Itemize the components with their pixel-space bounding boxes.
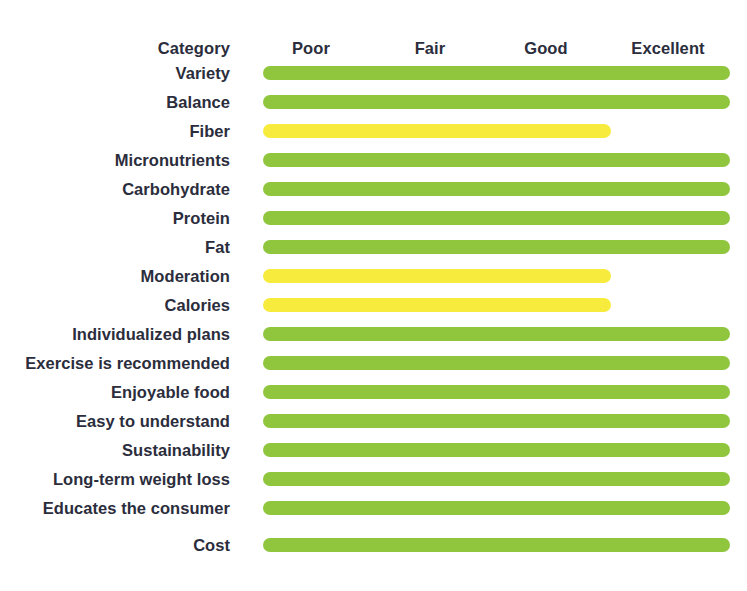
bar-easy-to-understand: [263, 414, 730, 428]
row-label-variety: Variety: [176, 62, 230, 91]
row-label-exercise-is-recommended: Exercise is recommended: [25, 352, 230, 381]
chart-row: Balance: [0, 91, 747, 120]
row-label-educates-the-consumer: Educates the consumer: [43, 497, 230, 526]
chart-row: Exercise is recommended: [0, 352, 747, 381]
bar-track: [263, 298, 730, 312]
bar-track: [263, 95, 730, 109]
bar-fat: [263, 240, 730, 254]
bar-track: [263, 211, 730, 225]
row-label-balance: Balance: [166, 91, 230, 120]
row-label-long-term-weight-loss: Long-term weight loss: [53, 468, 230, 497]
diet-evaluation-chart: Category PoorFairGoodExcellent VarietyBa…: [0, 0, 747, 591]
row-label-sustainability: Sustainability: [122, 439, 230, 468]
bar-track: [263, 501, 730, 515]
bar-track: [263, 385, 730, 399]
row-label-fat: Fat: [205, 236, 230, 265]
category-column-header: Category: [158, 36, 230, 60]
axis-tick-poor: Poor: [292, 36, 330, 60]
bar-sustainability: [263, 443, 730, 457]
bar-micronutrients: [263, 153, 730, 167]
axis-tick-good: Good: [524, 36, 567, 60]
bar-fiber: [263, 124, 611, 138]
row-label-enjoyable-food: Enjoyable food: [111, 381, 230, 410]
bar-track: [263, 356, 730, 370]
chart-row: Individualized plans: [0, 323, 747, 352]
chart-rows: VarietyBalanceFiberMicronutrientsCarbohy…: [0, 62, 747, 563]
bar-track: [263, 240, 730, 254]
bar-track: [263, 66, 730, 80]
row-label-individualized-plans: Individualized plans: [72, 323, 230, 352]
row-label-carbohydrate: Carbohydrate: [122, 178, 230, 207]
chart-row: Educates the consumer: [0, 497, 747, 526]
bar-calories: [263, 298, 611, 312]
bar-exercise-is-recommended: [263, 356, 730, 370]
bar-long-term-weight-loss: [263, 472, 730, 486]
row-label-fiber: Fiber: [189, 120, 230, 149]
chart-row: Long-term weight loss: [0, 468, 747, 497]
row-label-cost: Cost: [193, 534, 230, 563]
chart-row: Carbohydrate: [0, 178, 747, 207]
bar-individualized-plans: [263, 327, 730, 341]
chart-row: Sustainability: [0, 439, 747, 468]
row-label-protein: Protein: [173, 207, 230, 236]
row-label-micronutrients: Micronutrients: [115, 149, 230, 178]
bar-track: [263, 327, 730, 341]
bar-track: [263, 472, 730, 486]
bar-educates-the-consumer: [263, 501, 730, 515]
bar-track: [263, 269, 730, 283]
chart-row: Protein: [0, 207, 747, 236]
bar-track: [263, 153, 730, 167]
bar-track: [263, 538, 730, 552]
bar-track: [263, 182, 730, 196]
bar-carbohydrate: [263, 182, 730, 196]
chart-row: Fat: [0, 236, 747, 265]
bar-cost: [263, 538, 730, 552]
axis-tick-excellent: Excellent: [631, 36, 704, 60]
bar-variety: [263, 66, 730, 80]
bar-moderation: [263, 269, 611, 283]
chart-row: Easy to understand: [0, 410, 747, 439]
chart-row: Calories: [0, 294, 747, 323]
chart-row: Enjoyable food: [0, 381, 747, 410]
bar-balance: [263, 95, 730, 109]
bar-track: [263, 443, 730, 457]
bar-track: [263, 124, 730, 138]
row-label-calories: Calories: [164, 294, 230, 323]
chart-header-row: Category PoorFairGoodExcellent: [0, 36, 747, 60]
chart-row: Moderation: [0, 265, 747, 294]
bar-protein: [263, 211, 730, 225]
bar-track: [263, 414, 730, 428]
bar-enjoyable-food: [263, 385, 730, 399]
chart-row: Cost: [0, 534, 747, 563]
axis-tick-fair: Fair: [415, 36, 446, 60]
row-label-moderation: Moderation: [141, 265, 230, 294]
chart-row: Variety: [0, 62, 747, 91]
row-label-easy-to-understand: Easy to understand: [76, 410, 230, 439]
chart-row: Micronutrients: [0, 149, 747, 178]
chart-row: Fiber: [0, 120, 747, 149]
